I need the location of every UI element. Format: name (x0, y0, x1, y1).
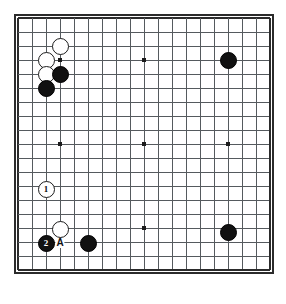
stone-white[interactable]: 1 (38, 181, 55, 198)
stone-white[interactable] (52, 221, 69, 238)
stone-black[interactable] (38, 80, 55, 97)
stone-black[interactable] (80, 235, 97, 252)
point-marker-label[interactable]: A (55, 238, 64, 248)
stone-white[interactable] (52, 38, 69, 55)
stone-black[interactable] (52, 66, 69, 83)
stone-move-number: 1 (44, 185, 49, 194)
stone-black[interactable] (220, 224, 237, 241)
stone-move-number: 2 (44, 239, 49, 248)
stone-black[interactable]: 2 (38, 235, 55, 252)
stone-black[interactable] (220, 52, 237, 69)
go-board-diagram: 12 A (0, 0, 286, 304)
